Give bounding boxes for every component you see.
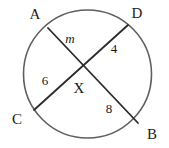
segment-label-6: 6 bbox=[42, 74, 49, 87]
point-label-x: X bbox=[74, 81, 85, 96]
geometry-figure: A D C B X m 4 6 8 bbox=[0, 0, 169, 148]
point-label-c: C bbox=[12, 112, 22, 127]
point-label-a: A bbox=[30, 7, 41, 22]
segment-label-4: 4 bbox=[111, 42, 118, 55]
point-label-d: D bbox=[132, 6, 143, 21]
geometry-canvas bbox=[0, 0, 169, 148]
segment-label-m: m bbox=[65, 32, 74, 45]
point-label-b: B bbox=[147, 127, 157, 142]
segment-label-8: 8 bbox=[106, 102, 113, 115]
chord-a-b bbox=[48, 28, 138, 123]
